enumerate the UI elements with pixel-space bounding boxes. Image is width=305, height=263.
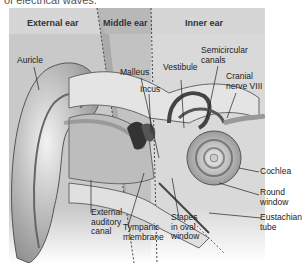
- label-malleus: Malleus: [120, 68, 149, 78]
- label-external-auditory-canal: External auditory canal: [91, 208, 122, 237]
- caption-fragment: of electrical waves.: [4, 0, 97, 6]
- label-semicircular-canals: Semicircular canals: [201, 46, 248, 65]
- label-stapes-in-oval-window: Stapes in oval window: [171, 213, 199, 242]
- ear-anatomy-figure: External ear Middle ear Inner ear Auricl…: [9, 8, 265, 263]
- section-header-inner-ear: Inner ear: [185, 18, 223, 28]
- label-auricle: Auricle: [17, 56, 43, 66]
- label-round-window: Round window: [260, 188, 288, 207]
- label-tympanic-membrane: Tympanic membrane: [123, 223, 164, 242]
- section-header-external-ear: External ear: [27, 18, 79, 28]
- label-cochlea: Cochlea: [260, 167, 291, 177]
- label-vestibule: Vestibule: [163, 63, 198, 73]
- label-incus: Incus: [140, 85, 160, 95]
- section-header-middle-ear: Middle ear: [103, 18, 148, 28]
- label-cranial-nerve-viii: Cranial nerve VIII: [226, 72, 262, 91]
- label-eustachian-tube: Eustachian tube: [260, 213, 302, 232]
